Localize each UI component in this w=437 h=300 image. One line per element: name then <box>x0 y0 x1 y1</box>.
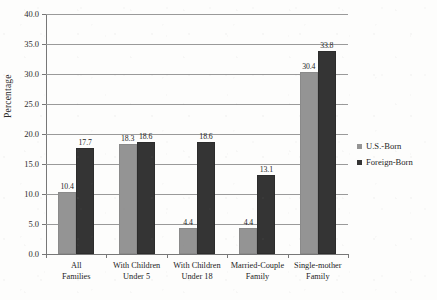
bar-group: 30.433.8 <box>288 14 348 254</box>
plot-area: 40.035.030.025.020.015.010.05.00.0 10.41… <box>46 14 348 254</box>
bar-value-label: 33.8 <box>320 41 333 50</box>
y-axis-title: Percentage <box>3 8 13 118</box>
bar-series-container: 10.417.718.318.64.418.64.413.130.433.8 <box>46 14 348 254</box>
y-tick-label: 15.0 <box>24 159 39 169</box>
x-tick-mark <box>227 254 228 258</box>
y-tick-label: 25.0 <box>24 99 39 109</box>
bar-fb[interactable]: 18.6 <box>137 142 155 254</box>
bar-fb[interactable]: 17.7 <box>76 148 94 254</box>
x-tick-mark <box>348 254 349 258</box>
x-category-label-line: Single-mother <box>282 261 354 272</box>
bar-value-label: 18.6 <box>139 132 152 141</box>
bar-group: 10.417.7 <box>46 14 106 254</box>
bar-us[interactable]: 30.4 <box>300 72 318 254</box>
bar-value-label: 4.4 <box>183 218 192 227</box>
bar-value-label: 17.7 <box>79 138 92 147</box>
x-tick-mark <box>167 254 168 258</box>
cutoff-caption-sliver <box>6 293 216 297</box>
legend-item-label: Foreign-Born <box>366 157 413 167</box>
x-axis-line <box>46 254 349 255</box>
bar-us[interactable]: 4.4 <box>239 228 257 254</box>
bar-us[interactable]: 18.3 <box>119 144 137 254</box>
y-tick-label: 30.0 <box>24 69 39 79</box>
bar-fb[interactable]: 33.8 <box>318 51 336 254</box>
x-category-label: Single-motherFamily <box>282 261 354 282</box>
bar-us[interactable]: 4.4 <box>179 228 197 254</box>
y-tick-label: 5.0 <box>28 219 39 229</box>
bar-value-label: 18.3 <box>121 134 134 143</box>
bar-group: 18.318.6 <box>106 14 166 254</box>
bar-value-label: 13.1 <box>260 165 273 174</box>
bar-fb[interactable]: 18.6 <box>197 142 215 254</box>
bar-fb[interactable]: 13.1 <box>257 175 275 254</box>
x-tick-mark <box>288 254 289 258</box>
x-category-label-line: Family <box>282 272 354 283</box>
y-tick-label: 35.0 <box>24 39 39 49</box>
bar-group: 4.413.1 <box>227 14 287 254</box>
y-tick-label: 40.0 <box>24 9 39 19</box>
bar-us[interactable]: 10.4 <box>58 192 76 254</box>
legend-item-label: U.S.-Born <box>366 141 401 151</box>
bar-group: 4.418.6 <box>167 14 227 254</box>
legend-item[interactable]: U.S.-Born <box>357 141 435 151</box>
x-tick-mark <box>46 254 47 258</box>
y-tick-label: 20.0 <box>24 129 39 139</box>
grouped-bar-chart: Percentage 40.035.030.025.020.015.010.05… <box>0 0 437 300</box>
y-tick-label: 10.0 <box>24 189 39 199</box>
bar-value-label: 30.4 <box>302 62 315 71</box>
x-tick-mark <box>106 254 107 258</box>
chart-legend: U.S.-BornForeign-Born <box>357 141 435 173</box>
legend-swatch-icon <box>357 160 362 165</box>
bar-value-label: 4.4 <box>244 218 253 227</box>
bar-value-label: 18.6 <box>199 132 212 141</box>
y-tick-label: 0.0 <box>28 249 39 259</box>
legend-item[interactable]: Foreign-Born <box>357 157 435 167</box>
legend-swatch-icon <box>357 144 362 149</box>
bar-value-label: 10.4 <box>61 182 74 191</box>
